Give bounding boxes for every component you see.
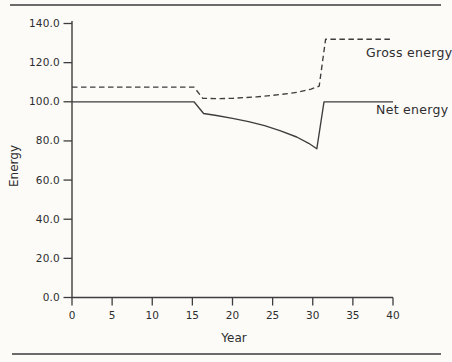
x-tick-label-40: 40: [381, 310, 405, 321]
legend-net-energy: Net energy: [376, 102, 448, 117]
y-tick-label-140: 140.0: [20, 18, 60, 29]
y-tick-label-100: 100.0: [20, 96, 60, 107]
legend-gross-energy: Gross energy: [366, 45, 452, 60]
x-tick-label-25: 25: [261, 310, 285, 321]
y-tick-label-0: 0.0: [20, 292, 60, 303]
series-net-energy: [72, 102, 393, 149]
x-tick-label-30: 30: [301, 310, 325, 321]
x-tick-label-20: 20: [221, 310, 245, 321]
y-tick-label-40: 40.0: [20, 214, 60, 225]
x-axis-title: Year: [206, 331, 262, 345]
y-tick-label-80: 80.0: [20, 135, 60, 146]
bottom-rule: [12, 353, 441, 355]
y-tick-label-60: 60.0: [20, 175, 60, 186]
axes-lines: [72, 21, 393, 298]
x-tick-label-15: 15: [180, 310, 204, 321]
series-gross-energy: [72, 39, 393, 98]
x-tick-label-10: 10: [140, 310, 164, 321]
x-tick-label-5: 5: [100, 310, 124, 321]
y-axis-title: Energy: [7, 138, 21, 194]
x-tick-label-0: 0: [60, 310, 84, 321]
y-tick-label-120: 120.0: [20, 57, 60, 68]
x-tick-label-35: 35: [341, 310, 365, 321]
y-tick-label-20: 20.0: [20, 253, 60, 264]
